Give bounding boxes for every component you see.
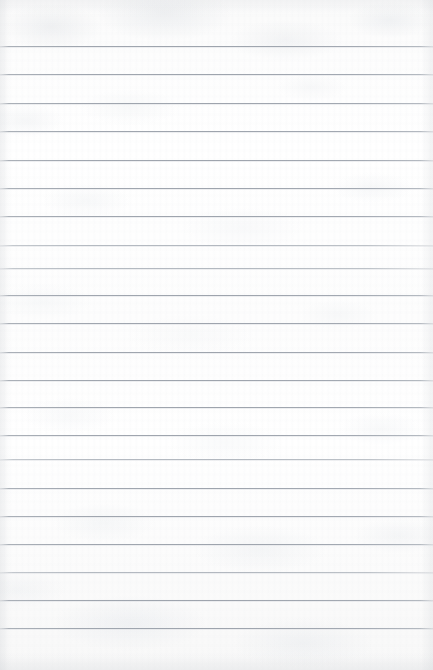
lined-paper-page [0,0,433,670]
page-body-text[interactable] [0,0,433,670]
